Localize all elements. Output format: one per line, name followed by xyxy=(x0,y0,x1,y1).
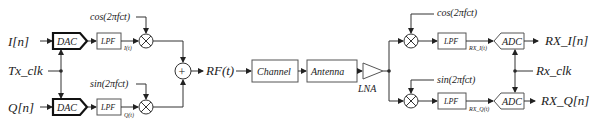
tx-dac-i: DAC xyxy=(53,33,87,49)
tx-mixer-q xyxy=(139,100,153,114)
antenna-label: Antenna xyxy=(310,66,344,77)
tx-summer: + xyxy=(175,63,191,79)
rx-baseband-i-label: RX_I(t) xyxy=(468,45,487,52)
rx-lpf-i-label: LPF xyxy=(443,37,458,46)
channel-section: Channel Antenna LNA xyxy=(236,60,391,94)
tx-dac-i-label: DAC xyxy=(56,36,77,47)
rx-adc-q-label: ADC xyxy=(501,96,522,107)
tx-baseband-i-label: I(t) xyxy=(123,45,132,52)
channel-label: Channel xyxy=(257,66,291,77)
rx-adc-i: ADC xyxy=(494,33,524,49)
channel-block: Channel xyxy=(252,60,298,82)
rx-baseband-q-label: RX_Q(t) xyxy=(468,106,489,113)
rx-mixer-i xyxy=(404,34,418,48)
iq-transceiver-diagram: I[n] DAC LPF I(t) cos(2πfᴄt) Tx_clk Q[n] xyxy=(0,0,595,121)
rx-carrier-cos-label: cos(2πfᴄt) xyxy=(437,7,478,19)
rx-adc-i-label: ADC xyxy=(501,36,522,47)
rx-lpf-q: LPF xyxy=(438,93,466,109)
tx-output-label: RF(t) xyxy=(205,63,234,78)
rx-carrier-sin-label: sin(2πfᴄt) xyxy=(437,74,476,86)
tx-lpf-i: LPF xyxy=(97,33,121,49)
tx-carrier-sin-label: sin(2πfᴄt) xyxy=(90,78,129,90)
tx-dac-q-label: DAC xyxy=(56,102,77,113)
antenna-block: Antenna xyxy=(307,60,357,82)
rx-lpf-q-label: LPF xyxy=(443,97,458,106)
tx-input-i-label: I[n] xyxy=(7,34,29,49)
tx-lpf-q: LPF xyxy=(97,99,121,115)
tx-input-q-label: Q[n] xyxy=(8,100,34,115)
rx-section: cos(2πfᴄt) LPF RX_I(t) ADC RX_I[n] Rx_cl… xyxy=(389,7,589,113)
sum-symbol: + xyxy=(179,65,186,79)
tx-carrier-cos-label: cos(2πfᴄt) xyxy=(90,11,131,23)
rx-adc-q: ADC xyxy=(494,93,524,109)
tx-lpf-q-label: LPF xyxy=(100,103,115,112)
lna-block xyxy=(363,63,383,79)
rx-output-i-label: RX_I[n] xyxy=(544,33,588,48)
rx-clock-label: Rx_clk xyxy=(535,63,572,78)
rx-lpf-i: LPF xyxy=(438,33,466,49)
lna-label: LNA xyxy=(357,83,377,94)
rx-mixer-q xyxy=(404,94,418,108)
tx-mixer-i xyxy=(139,34,153,48)
tx-dac-q: DAC xyxy=(53,99,87,115)
rx-output-q-label: RX_Q[n] xyxy=(540,93,589,108)
tx-clock-label: Tx_clk xyxy=(8,63,43,78)
tx-baseband-q-label: Q(t) xyxy=(124,112,134,119)
tx-lpf-i-label: LPF xyxy=(100,37,115,46)
tx-section: I[n] DAC LPF I(t) cos(2πfᴄt) Tx_clk Q[n] xyxy=(7,11,234,119)
